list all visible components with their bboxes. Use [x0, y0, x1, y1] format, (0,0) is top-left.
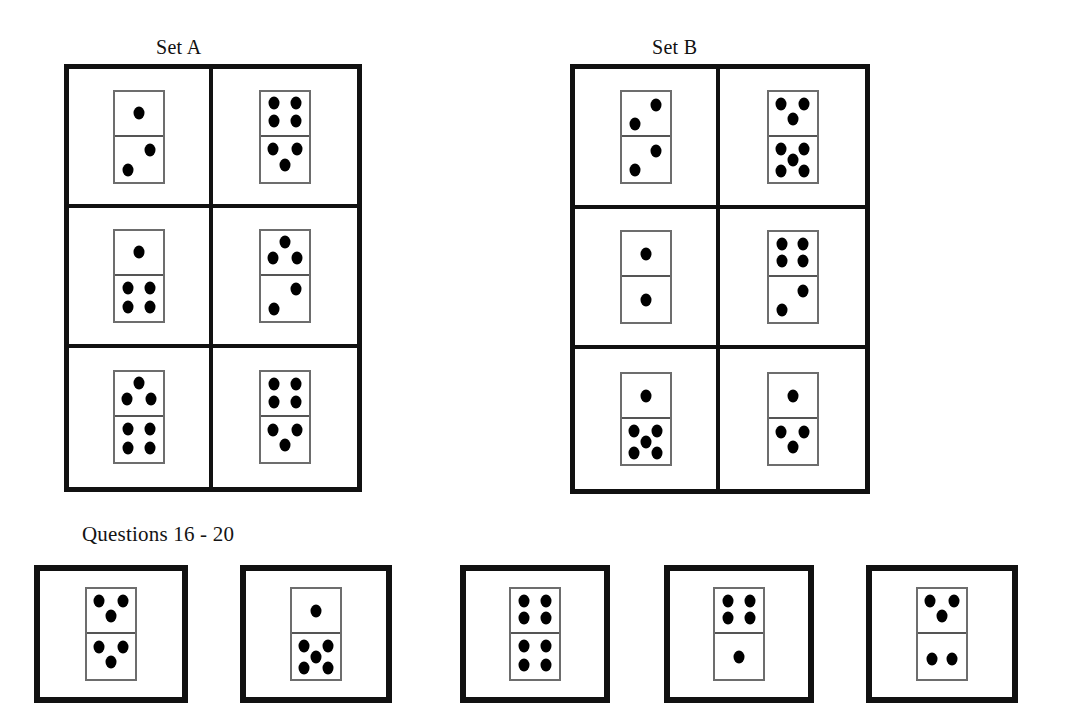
pip	[776, 255, 787, 268]
pip	[540, 658, 551, 671]
pip	[121, 392, 132, 405]
pip	[798, 255, 809, 268]
pip	[290, 377, 301, 390]
option-1-domino	[85, 587, 137, 681]
pip	[946, 652, 957, 665]
set-a-domino-3-bottom-half	[261, 276, 309, 321]
pip	[540, 640, 551, 653]
pip	[269, 303, 280, 316]
set-b-domino-0-top-half	[622, 92, 670, 137]
pip	[311, 650, 322, 663]
set-b-domino-3	[767, 230, 819, 324]
set-b-domino-1-top-half	[769, 92, 817, 137]
set-b-domino-5-top-half	[769, 374, 817, 419]
set-b-grid	[570, 64, 870, 494]
set-b-domino-3-top-half	[769, 232, 817, 277]
set-b-domino-1-bottom-half	[769, 137, 817, 182]
pip	[269, 114, 280, 127]
pip	[629, 117, 640, 130]
pip	[651, 144, 662, 157]
set-a-domino-2	[113, 229, 165, 323]
set-b-domino-2-top-half	[622, 232, 670, 277]
set-b-domino-4-top-half	[622, 374, 670, 419]
pip	[925, 595, 936, 608]
set-a-cell-4[interactable]	[69, 348, 213, 487]
set-b-domino-1	[767, 90, 819, 184]
set-a-domino-4	[113, 370, 165, 464]
option-3[interactable]	[460, 565, 610, 703]
pip	[519, 640, 530, 653]
set-b-domino-4-bottom-half	[622, 419, 670, 464]
option-4[interactable]	[664, 565, 814, 703]
option-1-domino-bottom-half	[87, 634, 135, 679]
pip	[123, 423, 134, 436]
set-a-domino-4-bottom-half	[115, 417, 163, 462]
set-b-cell-0[interactable]	[575, 69, 720, 209]
pip	[776, 237, 787, 250]
pip	[134, 377, 145, 390]
set-b-cell-4[interactable]	[575, 349, 720, 489]
pip	[798, 284, 809, 297]
set-a-cell-1[interactable]	[213, 69, 357, 208]
pip	[123, 441, 134, 454]
pip	[280, 235, 291, 248]
set-b-cell-5[interactable]	[720, 349, 865, 489]
pip	[540, 594, 551, 607]
pip	[787, 389, 798, 402]
pip	[948, 595, 959, 608]
set-a-domino-3-top-half	[261, 231, 309, 276]
pip	[290, 395, 301, 408]
pip	[291, 143, 302, 156]
pip	[723, 594, 734, 607]
set-b-domino-0	[620, 90, 672, 184]
set-b-domino-5-bottom-half	[769, 419, 817, 464]
option-2[interactable]	[240, 565, 392, 703]
set-b-cell-3[interactable]	[720, 209, 865, 349]
set-a-cell-2[interactable]	[69, 208, 213, 347]
option-5[interactable]	[866, 565, 1018, 703]
set-a-grid	[64, 64, 362, 492]
pip	[106, 609, 117, 622]
option-1-domino-top-half	[87, 589, 135, 634]
pip	[787, 153, 798, 166]
pip	[106, 655, 117, 668]
pip	[311, 604, 322, 617]
pip	[322, 662, 333, 675]
pip	[799, 142, 810, 155]
pip	[290, 97, 301, 110]
set-a-domino-3	[259, 229, 311, 323]
set-a-cell-3[interactable]	[213, 208, 357, 347]
pip	[652, 424, 663, 437]
pip	[640, 293, 651, 306]
set-a-cell-0[interactable]	[69, 69, 213, 208]
set-b-caption: Set B	[652, 36, 697, 58]
pip	[640, 389, 651, 402]
set-a-cell-5[interactable]	[213, 348, 357, 487]
set-a-domino-0-top-half	[115, 92, 163, 137]
pip	[267, 251, 278, 264]
set-a-domino-1	[259, 90, 311, 184]
pip	[540, 612, 551, 625]
pip	[134, 107, 145, 120]
pip	[799, 98, 810, 111]
option-2-domino-bottom-half	[292, 634, 340, 679]
pip	[290, 114, 301, 127]
pip	[799, 165, 810, 178]
option-1[interactable]	[34, 565, 188, 703]
pip	[269, 395, 280, 408]
pip	[134, 246, 145, 259]
set-b-cell-1[interactable]	[720, 69, 865, 209]
set-a-domino-0-bottom-half	[115, 137, 163, 182]
set-b-domino-0-bottom-half	[622, 137, 670, 182]
option-5-domino-bottom-half	[918, 634, 966, 679]
pip	[123, 282, 134, 295]
pip	[519, 612, 530, 625]
pip	[268, 143, 279, 156]
set-b-domino-3-bottom-half	[769, 277, 817, 322]
pip	[268, 423, 279, 436]
pip	[744, 594, 755, 607]
pip	[144, 144, 155, 157]
pip	[775, 165, 786, 178]
pip	[299, 662, 310, 675]
set-b-cell-2[interactable]	[575, 209, 720, 349]
